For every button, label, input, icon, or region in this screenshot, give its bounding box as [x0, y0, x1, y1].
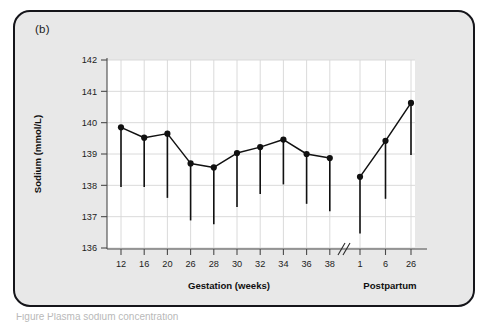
x-tick-label: 12	[116, 259, 126, 269]
y-tick-label: 142	[82, 55, 97, 65]
x-tick-label: 6	[383, 259, 388, 269]
y-tick-label: 139	[82, 149, 97, 159]
data-point	[257, 144, 263, 150]
data-point	[164, 131, 170, 137]
figure-root: (b)	[0, 0, 498, 327]
data-point	[357, 174, 363, 180]
caption-text: Figure Plasma sodium concentration	[16, 313, 316, 322]
figure-panel: (b)	[13, 10, 475, 307]
data-point	[234, 150, 240, 156]
x-tick-labels: 121620262830323436381626	[116, 259, 416, 269]
y-tick-labels: 136137138139140141142	[82, 55, 97, 253]
x-tick-label: 1	[357, 259, 362, 269]
x-axis-title-postpartum: Postpartum	[363, 280, 416, 291]
y-tick-label: 136	[82, 243, 97, 253]
y-tick-label: 140	[82, 118, 97, 128]
y-axis-title: Sodium (mmol/L)	[32, 115, 43, 193]
data-point	[280, 136, 286, 142]
data-point	[408, 100, 414, 106]
caption-strip: Figure Plasma sodium concentration	[16, 313, 316, 327]
x-tick-label: 30	[232, 259, 242, 269]
data-point	[382, 138, 388, 144]
data-point	[304, 151, 310, 157]
plot-area: 136137138139140141142 121620262830323436…	[15, 12, 477, 309]
sodium-line-chart: 136137138139140141142 121620262830323436…	[15, 12, 477, 309]
y-axis-ticks	[101, 60, 107, 248]
y-tick-label: 138	[82, 181, 97, 191]
x-axis-ticks	[121, 249, 411, 255]
y-tick-label: 141	[82, 87, 97, 97]
data-point	[327, 155, 333, 161]
data-point	[211, 164, 217, 170]
x-tick-label: 36	[301, 259, 311, 269]
x-axis-title: Gestation (weeks)	[188, 280, 270, 291]
x-tick-label: 34	[278, 259, 288, 269]
x-tick-label: 38	[325, 259, 335, 269]
data-point	[141, 135, 147, 141]
x-tick-label: 26	[406, 259, 416, 269]
data-point	[118, 124, 124, 130]
x-tick-label: 26	[185, 259, 195, 269]
x-tick-label: 20	[162, 259, 172, 269]
y-tick-label: 137	[82, 212, 97, 222]
x-tick-label: 16	[139, 259, 149, 269]
x-tick-label: 28	[209, 259, 219, 269]
data-point	[188, 160, 194, 166]
x-tick-label: 32	[255, 259, 265, 269]
